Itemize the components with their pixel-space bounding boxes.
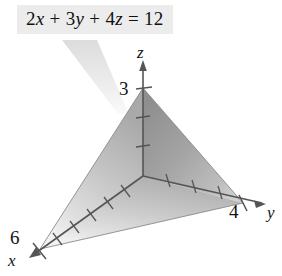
equation-coef-z: 4: [105, 8, 115, 29]
z-axis-label: z: [137, 44, 144, 61]
z-intercept-label: 3: [119, 79, 129, 98]
equation-plus-2: +: [89, 8, 100, 29]
x-axis-arrowhead: [29, 247, 41, 258]
equation-var-x: x: [36, 8, 45, 29]
x-intercept-label: 6: [10, 228, 20, 247]
y-intercept-label: 4: [229, 202, 239, 221]
callout-leader-wedge: [62, 40, 128, 114]
equation-coef-x: 2: [26, 8, 36, 29]
plane-intercept-figure: 2x + 3y + 4z = 12 z y x 3 4 6: [0, 0, 282, 276]
equation-var-z: z: [115, 8, 123, 29]
y-axis-label: y: [267, 204, 275, 221]
equation-coef-y: 3: [66, 8, 76, 29]
equation-rhs: 12: [144, 8, 164, 29]
x-axis-label: x: [8, 252, 16, 269]
coordinate-plane-plot: [0, 0, 282, 276]
equation-equals: =: [128, 8, 139, 29]
y-axis-arrowhead: [254, 201, 266, 209]
equation-callout-label: 2x + 3y + 4z = 12: [17, 5, 173, 34]
equation-plus-1: +: [50, 8, 61, 29]
equation-var-y: y: [76, 8, 85, 29]
z-axis-tick-3: [136, 87, 152, 89]
